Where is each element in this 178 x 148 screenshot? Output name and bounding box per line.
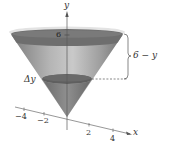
y-tick-label-6: 6 (56, 31, 61, 39)
brace (124, 34, 131, 79)
brace-label: 6 − y (133, 51, 157, 60)
y-axis-label: y (64, 1, 69, 10)
x-tick-label-4: 4 (110, 135, 115, 143)
x-tick-label-neg4: −4 (15, 113, 27, 121)
x-tick-label-2: 2 (86, 129, 91, 137)
x-axis-label: x (133, 128, 138, 137)
x-axis (15, 107, 132, 135)
slice-label: Δy (24, 75, 36, 84)
x-tick-label-neg2: −2 (37, 117, 49, 125)
